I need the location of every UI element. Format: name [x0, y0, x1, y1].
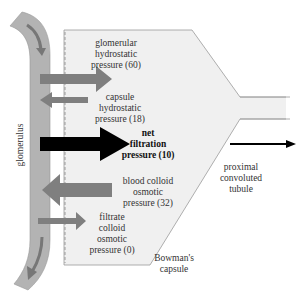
- filtration-diagram: glomerulus glomerular hydrostatic pressu…: [0, 0, 303, 298]
- bowmans-capsule-label: Bowman's capsule: [148, 253, 200, 275]
- blood-colloid-osmotic-label: blood colloid osmotic pressure (32): [112, 176, 184, 209]
- proximal-tubule-label: proximal convoluted tubule: [208, 162, 274, 195]
- net-filtration-label: net filtration pressure (10): [110, 128, 186, 161]
- glomerular-hydrostatic-label: glomerular hydrostatic pressure (60): [76, 38, 156, 71]
- filtrate-colloid-osmotic-label: filtrate colloid osmotic pressure (0): [84, 212, 140, 256]
- glomerulus-label: glomerulus: [15, 115, 25, 175]
- tubule-open-end: [286, 96, 303, 120]
- tubule-flow-arrow-icon: [286, 140, 296, 148]
- capsule-hydrostatic-label: capsule hydrostatic pressure (18): [90, 92, 150, 125]
